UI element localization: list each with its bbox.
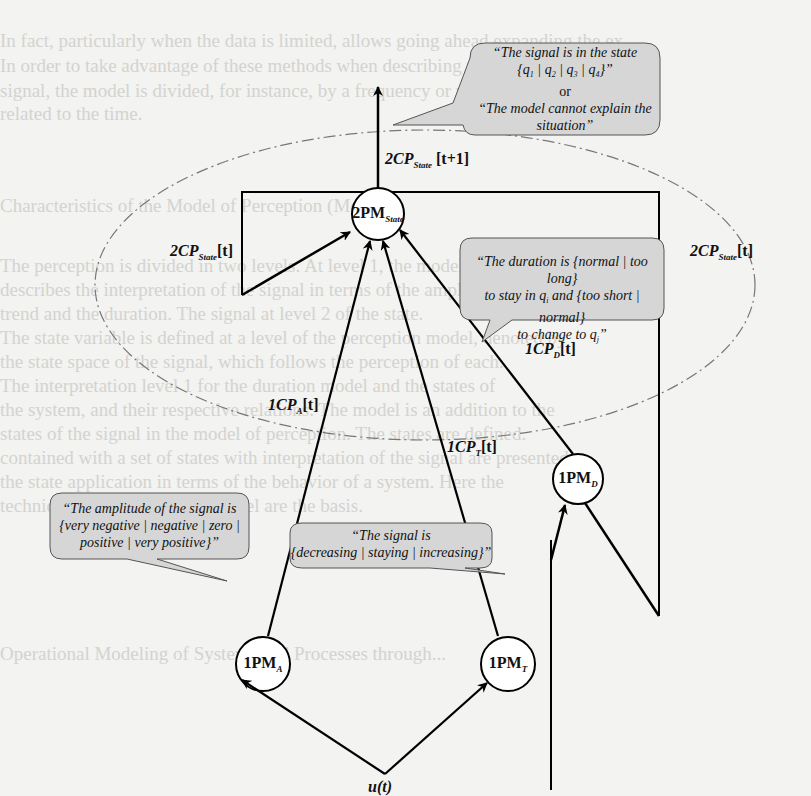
feedback-left-arrow xyxy=(242,232,350,295)
diagram-canvas xyxy=(0,0,811,796)
callout-state-line2: {q1 | q2 | q3 | q4}” xyxy=(470,61,660,83)
callout-duration-line1: “The duration is {normal | too long} xyxy=(460,253,664,287)
label-2cp-state-t-right: 2CPState[t] xyxy=(690,242,753,262)
callout-trend-line1: “The signal is xyxy=(290,527,492,544)
node-1pm-t: 1PMT xyxy=(481,654,535,674)
callout-state-line4: “The model cannot explain the xyxy=(470,100,660,117)
callout-state-line5: situation” xyxy=(470,117,660,134)
callout-state: “The signal is in the state {q1 | q2 | q… xyxy=(470,44,660,134)
label-2cp-state-t-left: 2CPState[t] xyxy=(170,242,233,262)
callout-trend: “The signal is {decreasing | staying | i… xyxy=(290,527,492,561)
callout-amplitude-line1: “The amplitude of the signal is xyxy=(50,500,249,517)
input-u-t-label: u(t) xyxy=(368,778,392,796)
edge-cp-a xyxy=(268,241,370,636)
node-1pm-a: 1PMA xyxy=(236,654,290,674)
callout-state-line1: “The signal is in the state xyxy=(470,44,660,61)
input-t-arrow xyxy=(551,505,565,560)
callout-duration: “The duration is {normal | too long} to … xyxy=(460,253,664,348)
label-1cp-a: 1CPA[t] xyxy=(268,396,318,416)
label-1cp-d: 1CPD[t] xyxy=(525,340,576,360)
label-2cp-state-t1: 2CPState [t+1] xyxy=(385,150,469,170)
input-u-to-t xyxy=(385,683,487,774)
label-1cp-t: 1CPT[t] xyxy=(447,438,497,458)
callout-state-line3: or xyxy=(470,83,660,100)
callout-amplitude: “The amplitude of the signal is {very ne… xyxy=(50,500,249,551)
callout-duration-line2: to stay in qi and {too short | normal} xyxy=(460,287,664,326)
node-2pm-state: 2PMState xyxy=(352,204,404,224)
callout-trend-line2: {decreasing | staying | increasing}” xyxy=(290,544,492,561)
node-1pm-d: 1PMD xyxy=(553,469,603,489)
input-u-to-a xyxy=(242,680,385,774)
callout-amplitude-line2: {very negative | negative | zero | xyxy=(50,517,249,534)
callout-amplitude-line3: positive | very positive}” xyxy=(50,534,249,551)
